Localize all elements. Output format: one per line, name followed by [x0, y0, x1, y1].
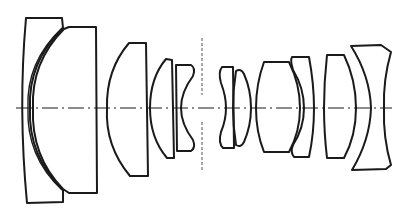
lens-diagram	[0, 0, 402, 211]
lens-element-8	[256, 62, 300, 152]
lens-diagram-canvas	[0, 0, 402, 211]
lens-element-10	[324, 55, 356, 158]
lens-element-9	[291, 57, 314, 157]
lens-element-3	[107, 43, 148, 176]
